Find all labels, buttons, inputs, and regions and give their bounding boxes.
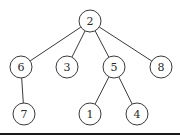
tree-diagram: 26358714 — [0, 0, 180, 135]
node-label: 6 — [18, 61, 25, 74]
edge-5-4 — [119, 77, 132, 104]
edges-layer — [22, 27, 152, 104]
tree-node-5: 5 — [103, 56, 125, 78]
bottom-border — [0, 133, 180, 135]
node-label: 8 — [158, 61, 165, 74]
nodes-layer: 26358714 — [10, 10, 172, 125]
node-label: 3 — [64, 61, 71, 74]
node-label: 5 — [111, 61, 118, 74]
tree-node-4: 4 — [126, 103, 148, 125]
tree-node-2: 2 — [79, 10, 101, 32]
edge-2-3 — [72, 31, 85, 57]
edge-5-1 — [95, 77, 109, 104]
tree-node-7: 7 — [13, 103, 35, 125]
tree-node-1: 1 — [79, 103, 101, 125]
node-label: 2 — [87, 15, 94, 28]
edge-2-6 — [30, 27, 81, 61]
tree-node-3: 3 — [56, 56, 78, 78]
node-label: 4 — [134, 108, 141, 121]
edge-6-7 — [22, 78, 24, 103]
node-label: 7 — [21, 108, 28, 121]
tree-node-8: 8 — [150, 56, 172, 78]
node-label: 1 — [87, 108, 94, 121]
edge-2-5 — [95, 31, 109, 57]
edge-2-8 — [99, 27, 152, 61]
tree-node-6: 6 — [10, 56, 32, 78]
